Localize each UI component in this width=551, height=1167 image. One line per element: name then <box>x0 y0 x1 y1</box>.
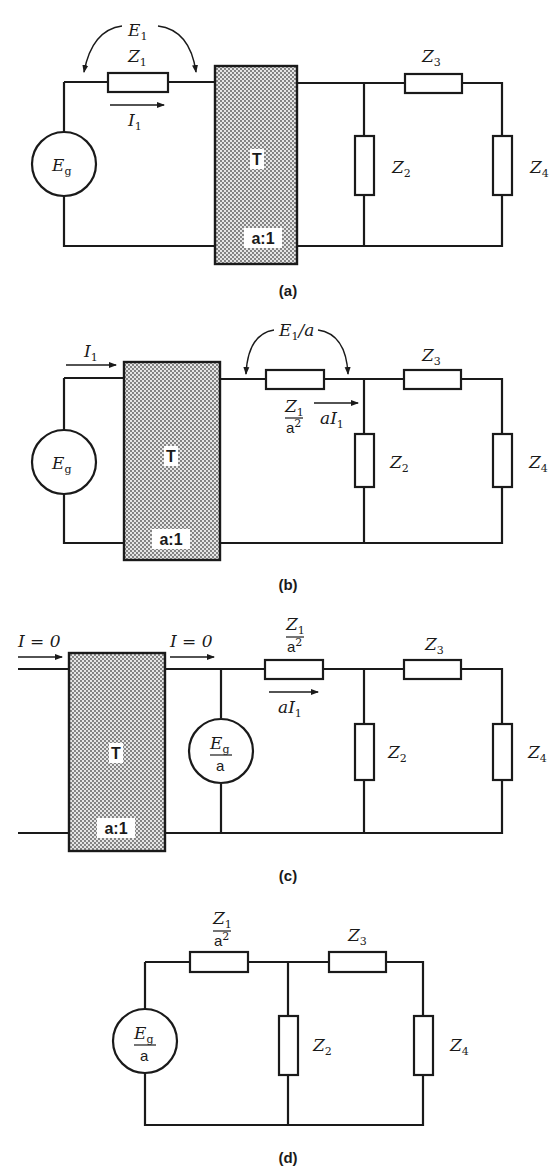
voltage-arrow-right <box>158 26 196 72</box>
z4-label: Z4 <box>527 742 547 765</box>
impedance-z1-over-a2 <box>266 370 324 389</box>
impedance-z4 <box>493 434 512 487</box>
transformer-label: T <box>166 448 176 465</box>
z3-label: Z3 <box>424 634 444 657</box>
panel-a: Eg E1 Z1 I1 T a:1 Z3 Z2 Z4 (a) <box>32 20 549 299</box>
impedance-z2 <box>355 136 374 195</box>
current-label-i1: I1 <box>127 110 142 133</box>
z1-fraction-den: a2 <box>287 636 302 655</box>
wire <box>297 195 502 246</box>
circuit-figure: Eg E1 Z1 I1 T a:1 Z3 Z2 Z4 (a) I1 <box>0 0 551 1167</box>
transformer-label: T <box>111 745 121 762</box>
voltage-arrow-left <box>246 330 274 374</box>
impedance-z2 <box>355 434 374 487</box>
z1-fraction-den: a2 <box>214 930 229 949</box>
impedance-z3 <box>404 370 461 389</box>
voltage-label-e1-over-a: E1/a <box>278 320 314 343</box>
wire <box>64 494 124 543</box>
z4-label: Z4 <box>449 1035 469 1058</box>
output-current-label: I = 0 <box>169 631 213 651</box>
z1-fraction-num: Z1 <box>284 396 304 419</box>
z1-fraction-den: a2 <box>286 417 301 436</box>
wire <box>386 962 423 1016</box>
impedance-z4 <box>414 1016 433 1075</box>
input-current-label: I1 <box>83 341 98 364</box>
source-fraction-den: a <box>216 757 225 774</box>
source-fraction-den: a <box>140 1047 149 1064</box>
wire <box>220 487 502 543</box>
transformer-ratio: a:1 <box>251 230 274 247</box>
z2-label: Z2 <box>387 742 407 765</box>
voltage-arrow-right <box>318 330 348 374</box>
z3-label: Z2 <box>389 452 409 475</box>
impedance-z4 <box>493 724 512 780</box>
impedance-z4 <box>493 136 512 195</box>
transformer-ratio: a:1 <box>104 820 127 837</box>
transformer-ratio: a:1 <box>159 531 182 548</box>
z2-label: Z2 <box>391 157 411 180</box>
z2-label: Z2 <box>312 1035 332 1058</box>
z3-label: Z3 <box>421 345 441 368</box>
wire <box>165 780 502 833</box>
impedance-z1-over-a2 <box>265 660 323 679</box>
wire <box>64 196 215 246</box>
wire <box>461 379 502 434</box>
current-label-ai1: aI1 <box>278 697 302 720</box>
current-label-ai1: aI1 <box>320 408 344 431</box>
z3-label: Z3 <box>347 925 367 948</box>
caption-d: (d) <box>278 1149 297 1166</box>
caption-b: (b) <box>278 576 297 593</box>
wire <box>145 1073 423 1125</box>
wire <box>462 83 502 136</box>
transformer-label: T <box>252 151 262 168</box>
z1-label: Z1 <box>127 46 147 69</box>
voltage-label-e1: E1 <box>127 20 147 43</box>
impedance-z1 <box>108 73 168 92</box>
voltage-arrow-left <box>84 26 122 72</box>
impedance-z3 <box>329 952 386 972</box>
caption-c: (c) <box>279 867 297 884</box>
z1-fraction-num: Z1 <box>285 614 305 637</box>
z1-fraction-num: Z1 <box>212 908 232 931</box>
impedance-z1-over-a2 <box>190 952 248 972</box>
panel-c: I = 0 T a:1 I = 0 Eg a Z1 a2 aI1 Z2 Z3 Z… <box>17 614 547 884</box>
z3-label: Z3 <box>421 46 441 69</box>
caption-a: (a) <box>279 282 297 299</box>
impedance-z3 <box>404 660 461 679</box>
z4-label: Z4 <box>528 452 548 475</box>
panel-b: I1 Eg T a:1 E1/a Z1 a2 aI1 Z2 Z3 <box>32 320 548 593</box>
impedance-z3 <box>405 74 462 93</box>
impedance-z2 <box>279 1016 298 1075</box>
panel-d: Eg a Z1 a2 Z3 Z2 Z4 (d) <box>113 908 469 1166</box>
wire <box>461 669 502 724</box>
z4-label: Z4 <box>529 157 549 180</box>
input-current-label: I = 0 <box>17 631 61 651</box>
impedance-z2 <box>355 724 374 780</box>
